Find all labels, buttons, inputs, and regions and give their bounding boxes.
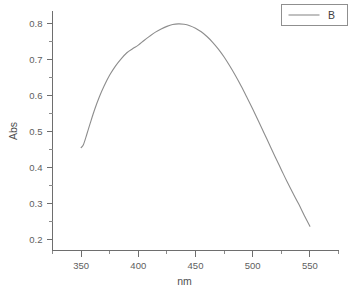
- y-axis-tick-label: 0.6: [29, 90, 42, 101]
- y-axis-tick-label: 0.3: [29, 198, 42, 209]
- y-axis-tick-label: 0.7: [29, 54, 42, 65]
- absorbance-spectrum-chart: 3504004505005500.20.30.40.50.60.70.8nmAb…: [0, 0, 353, 296]
- x-axis-tick-label: 450: [188, 260, 204, 271]
- chart-container: 3504004505005500.20.30.40.50.60.70.8nmAb…: [0, 0, 353, 296]
- x-axis-title: nm: [177, 275, 192, 287]
- y-axis-tick-label: 0.4: [29, 162, 42, 173]
- x-axis-tick-label: 550: [302, 260, 318, 271]
- y-axis-tick-label: 0.2: [29, 234, 42, 245]
- data-series-line-b: [81, 24, 310, 226]
- y-axis-tick-label: 0.5: [29, 126, 42, 137]
- x-axis-tick-label: 350: [73, 260, 89, 271]
- x-axis-tick-label: 400: [130, 260, 146, 271]
- legend-entry-label: B: [328, 9, 335, 21]
- y-axis-tick-label: 0.8: [29, 18, 42, 29]
- x-axis-tick-label: 500: [245, 260, 261, 271]
- y-axis-title: Abs: [7, 122, 19, 140]
